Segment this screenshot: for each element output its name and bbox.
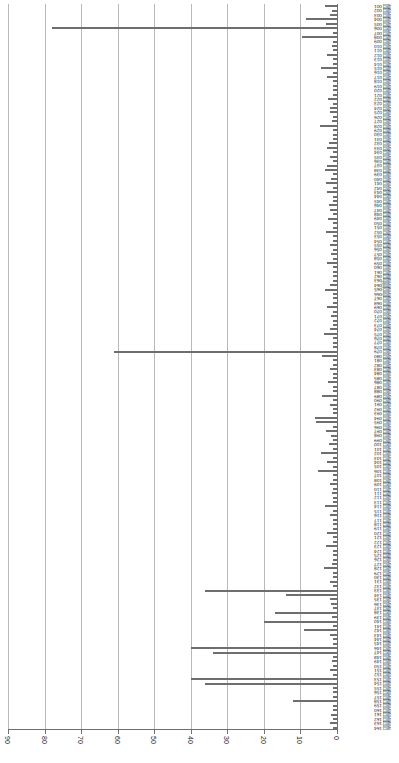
bar [330,14,337,16]
bar [333,709,337,711]
bar [333,386,337,388]
bar [333,607,337,609]
x-axis-tick-label: 40 [187,736,194,744]
bar [333,674,337,676]
bar [333,129,337,131]
y-axis-label: 项目 128 [339,566,391,570]
bar [333,408,337,410]
bar [327,76,337,78]
y-axis-label: 项目 088 [339,389,391,393]
bar [327,461,337,463]
bar [332,563,337,565]
x-axis-tick [45,730,46,734]
x-axis-tick-label: 10 [296,736,303,744]
y-axis-label: 项目 018 [339,79,391,83]
x-axis-tick-label: 0 [333,736,340,740]
bar [333,293,337,295]
bar [293,700,337,702]
bar [333,72,337,74]
bar [275,612,337,614]
y-axis-label: 项目 013 [339,57,391,61]
y-axis-label: 项目 046 [339,203,391,207]
bar [52,27,337,29]
bar [322,355,337,357]
x-axis-tick [227,730,228,734]
bar [328,218,337,220]
gridline [191,4,192,730]
y-axis-label: 项目 109 [339,482,391,486]
bar [332,120,337,122]
bar [321,452,337,454]
x-axis-tick-label: 30 [223,736,230,744]
bar [333,519,337,521]
y-axis-label: 项目 025 [339,110,391,114]
bar [333,691,337,693]
bar [333,342,337,344]
bar [330,634,337,636]
bar [333,297,337,299]
y-axis-label: 项目 095 [339,420,391,424]
bar [191,678,337,680]
bar [333,523,337,525]
bar [321,67,337,69]
bar [333,638,337,640]
plot-area [8,4,337,730]
x-axis-tick [154,730,155,734]
bar [333,85,337,87]
bar [332,660,337,662]
bar [330,581,337,583]
x-axis-tick [337,730,338,734]
bar [333,346,337,348]
bar [326,23,337,25]
bar [333,364,337,366]
x-axis-tick-label: 70 [77,736,84,744]
bar [326,545,337,547]
y-axis-label: 项目 004 [339,17,391,21]
bar [333,687,337,689]
bar [330,328,337,330]
bar [333,585,337,587]
bar [327,191,337,193]
bar [324,567,337,569]
bar [330,107,337,109]
gridline [45,4,46,730]
bar [333,160,337,162]
bar [191,647,337,649]
x-axis-tick-label: 90 [4,736,11,744]
bar [333,151,337,153]
bar [213,652,337,654]
y-axis-label: 项目 011 [339,48,391,52]
bar [329,443,337,445]
bar [114,351,337,353]
y-axis-label: 项目 149 [339,659,391,663]
y-axis-label: 项目 032 [339,141,391,145]
y-axis-label: 项目 142 [339,628,391,632]
y-axis-label: 项目 081 [339,358,391,362]
bar [330,284,337,286]
bar [205,683,337,685]
bar [333,196,337,198]
x-axis-tick-label: 50 [150,736,157,744]
bar [333,536,337,538]
bar [333,572,337,574]
bar [333,727,337,729]
bar [333,280,337,282]
bar [264,621,337,623]
bar [333,41,337,43]
y-axis-label: 项目 074 [339,327,391,331]
bar [332,10,337,12]
y-axis-label: 项目 156 [339,690,391,694]
bar [333,187,337,189]
bar [330,156,337,158]
bar [333,213,337,215]
bar [333,80,337,82]
bar [333,528,337,530]
bar [333,94,337,96]
bar [330,722,337,724]
bar [331,435,337,437]
bar [322,395,337,397]
bar [333,116,337,118]
gridline [8,4,9,730]
bar [330,514,337,516]
bar [333,541,337,543]
